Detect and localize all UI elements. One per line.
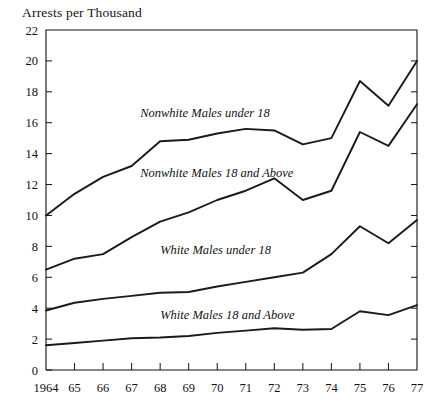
series-inline-label: Nonwhite Males 18 and Above bbox=[139, 166, 294, 180]
x-axis-tick-label: 76 bbox=[382, 381, 395, 395]
x-axis-tick-label: 71 bbox=[240, 381, 253, 395]
x-axis-tick-label: 66 bbox=[97, 381, 110, 395]
x-axis-tick-label: 74 bbox=[325, 381, 338, 395]
y-axis-tick-label: 8 bbox=[32, 240, 38, 254]
y-axis-tick-label: 20 bbox=[26, 54, 39, 68]
x-axis-tick-labels: 196465666768697071727374757677 bbox=[34, 381, 424, 395]
x-axis-tick-label: 72 bbox=[268, 381, 281, 395]
series-inline-labels: Nonwhite Males under 18Nonwhite Males 18… bbox=[139, 106, 295, 322]
series-inline-label: Nonwhite Males under 18 bbox=[139, 106, 270, 120]
x-axis-tick-label: 68 bbox=[154, 381, 167, 395]
y-axis-tick-label: 2 bbox=[32, 333, 38, 347]
x-axis-tick-label: 69 bbox=[182, 381, 195, 395]
y-axis-tick-label: 6 bbox=[32, 271, 38, 285]
series-inline-label: White Males 18 and Above bbox=[160, 308, 295, 322]
y-axis-tick-labels: 0246810121416182022 bbox=[26, 24, 39, 378]
x-axis-tick-label: 1964 bbox=[34, 381, 60, 395]
x-axis-tick-label: 77 bbox=[411, 381, 424, 395]
y-axis-tick-label: 16 bbox=[26, 116, 39, 130]
x-axis-tick-label: 67 bbox=[125, 381, 138, 395]
y-axis-tick-label: 18 bbox=[26, 85, 39, 99]
chart-container: Arrests per Thousand 0246810121416182022… bbox=[0, 0, 431, 407]
y-axis-tick-label: 14 bbox=[26, 147, 39, 161]
x-axis-tick-label: 75 bbox=[354, 381, 367, 395]
x-axis-tick-label: 73 bbox=[297, 381, 310, 395]
x-axis-tick-label: 70 bbox=[211, 381, 224, 395]
y-axis-tick-label: 22 bbox=[26, 24, 39, 38]
data-series-line bbox=[46, 220, 417, 310]
x-axis-tick-marks bbox=[75, 363, 389, 370]
series-inline-label: White Males under 18 bbox=[160, 243, 271, 257]
data-series-line bbox=[46, 61, 417, 216]
y-axis-tick-label: 0 bbox=[32, 364, 38, 378]
y-axis-tick-label: 12 bbox=[26, 178, 39, 192]
y-axis-tick-label: 4 bbox=[32, 302, 39, 316]
line-chart-plot: 0246810121416182022 19646566676869707172… bbox=[0, 0, 431, 407]
x-axis-tick-label: 65 bbox=[68, 381, 81, 395]
y-axis-tick-label: 10 bbox=[26, 209, 39, 223]
data-series-lines bbox=[46, 61, 417, 345]
